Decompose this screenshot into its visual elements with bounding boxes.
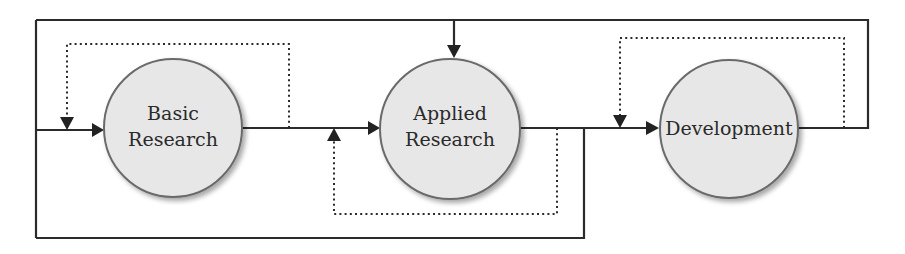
- arrowhead-right-icon: [92, 123, 104, 137]
- applied-research-label-line1: Applied: [412, 102, 487, 124]
- basic-research-label-line1: Basic: [147, 102, 199, 124]
- node-development: Development: [660, 60, 798, 198]
- arrowhead-up-icon: [327, 128, 341, 141]
- basic-research-label-line2: Research: [128, 128, 218, 150]
- development-label: Development: [665, 117, 793, 139]
- arrowhead-down-icon: [447, 45, 461, 58]
- research-development-diagram: Basic Research Applied Research Developm…: [0, 0, 905, 254]
- applied-research-label-line2: Research: [405, 128, 495, 150]
- arrowhead-down-icon: [613, 115, 627, 128]
- arrowhead-right-icon: [646, 121, 659, 135]
- node-applied-research: Applied Research: [380, 59, 520, 199]
- node-basic-research: Basic Research: [104, 59, 242, 197]
- arrowhead-right-icon: [368, 121, 380, 135]
- arrowhead-down-icon: [60, 117, 74, 130]
